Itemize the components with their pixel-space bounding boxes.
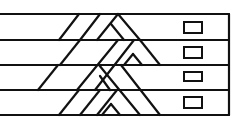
braid-diagram-canvas	[0, 0, 240, 126]
braid-segment-r4-diag-b	[80, 90, 100, 115]
braid-segment-r2-diag-a	[60, 40, 80, 65]
braid-segment-r1-diag-b	[80, 14, 100, 40]
drawer-handle-icon-4	[184, 97, 202, 108]
braid-segment-r2-small-up	[124, 54, 133, 65]
braid-segment-r2-small-down	[133, 54, 142, 65]
drawer-handle-icon-1	[184, 22, 202, 33]
braid-segment-r1-back-b	[111, 24, 124, 40]
braid-segment-r4-diag-c	[97, 90, 117, 115]
braid-segment-r4-diag-a	[59, 90, 79, 115]
braid-segment-r3-left-diag	[38, 65, 58, 90]
drawer-handle-icon-3	[184, 72, 202, 81]
braid-segment-r4-small-down	[111, 104, 120, 115]
braid-segment-r1-diag-a	[59, 14, 79, 40]
drawer-handle-icon-2	[184, 47, 202, 58]
braid-segment-r2-back-a	[140, 40, 160, 65]
braid-diagram	[0, 0, 240, 126]
